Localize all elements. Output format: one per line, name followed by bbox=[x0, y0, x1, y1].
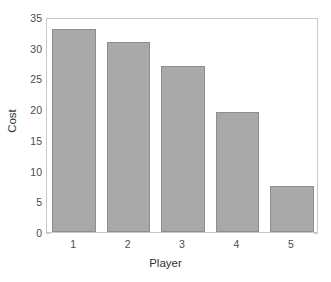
bar bbox=[52, 29, 96, 232]
bar bbox=[161, 66, 205, 232]
y-axis-tick-mark-right bbox=[314, 233, 318, 234]
y-axis-tick-mark bbox=[46, 233, 50, 234]
y-axis-tick-label: 25 bbox=[2, 73, 42, 85]
y-axis-tick-label: 30 bbox=[2, 43, 42, 55]
x-axis-title: Player bbox=[0, 257, 331, 269]
y-axis-tick-label: 5 bbox=[2, 196, 42, 208]
x-axis-tick-label: 4 bbox=[216, 238, 256, 250]
x-axis-tick-label: 2 bbox=[108, 238, 148, 250]
x-axis-tick-label: 1 bbox=[53, 238, 93, 250]
plot-area bbox=[46, 18, 318, 233]
bar bbox=[270, 186, 314, 232]
bar bbox=[216, 112, 260, 232]
figure-canvas: 05101520253035 12345 Cost Player bbox=[0, 0, 331, 282]
y-axis-tick-label: 35 bbox=[2, 12, 42, 24]
y-axis-tick-label: 10 bbox=[2, 166, 42, 178]
bar-series bbox=[47, 19, 317, 232]
bar bbox=[107, 42, 151, 232]
x-axis-tick-label: 3 bbox=[162, 238, 202, 250]
x-axis-tick-label: 5 bbox=[271, 238, 311, 250]
y-axis-title: Cost bbox=[6, 91, 18, 151]
y-axis-tick-label: 0 bbox=[2, 227, 42, 239]
